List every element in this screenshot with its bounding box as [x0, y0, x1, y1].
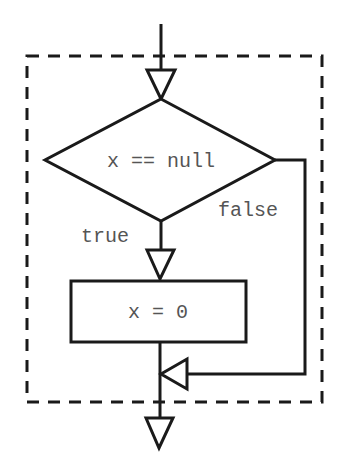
decision-text: x == null	[107, 150, 215, 173]
entry-arrowhead	[147, 70, 175, 99]
process-text: x = 0	[128, 301, 188, 324]
merge-arrowhead	[161, 359, 187, 389]
true-label: true	[81, 225, 129, 248]
false-label: false	[218, 199, 278, 222]
exit-arrowhead	[146, 418, 173, 448]
flowchart-canvas: x == null true x = 0 false	[0, 0, 342, 470]
true-arrowhead	[147, 250, 174, 279]
